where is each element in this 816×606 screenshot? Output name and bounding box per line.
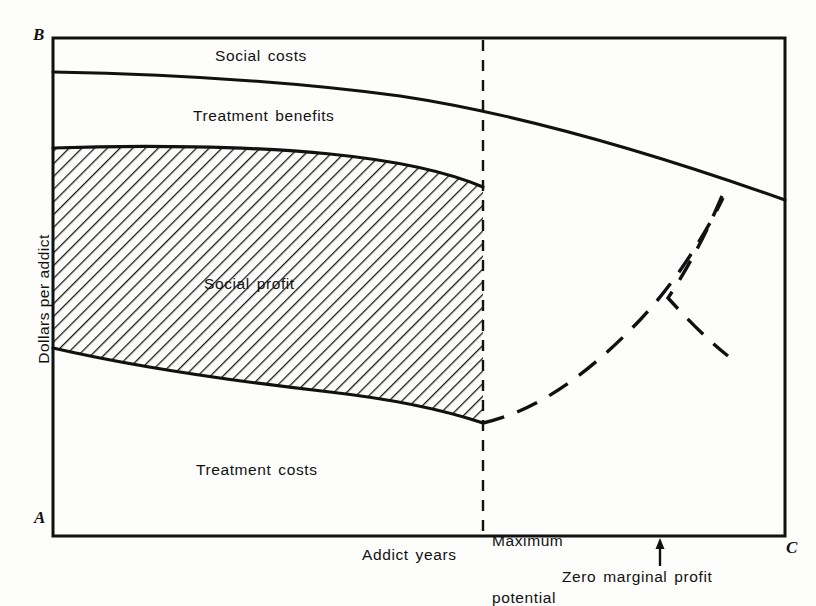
annotation-zero-marginal-profit: Zero marginal profit xyxy=(562,568,712,586)
axis-corner-label-a: A xyxy=(34,508,45,528)
chart-figure: B A C Social costs Treatment benefits So… xyxy=(0,0,816,606)
chart-canvas xyxy=(0,0,816,606)
band-label-social-costs: Social costs xyxy=(215,47,307,65)
annotation-maximum-potential: Maximum potential xyxy=(492,493,563,606)
x-axis-title: Addict years xyxy=(362,546,457,564)
band-label-social-profit: Social profit xyxy=(204,275,295,293)
axis-corner-label-c: C xyxy=(786,538,797,558)
y-axis-title: Dollars per addict xyxy=(35,209,53,389)
axis-corner-label-b: B xyxy=(33,25,44,45)
annotation-maximum-line2: potential xyxy=(492,588,563,606)
band-label-treatment-benefits: Treatment benefits xyxy=(193,107,334,125)
marginal-cost-dashed-curve-main xyxy=(666,196,728,356)
marginal-benefit-dashed-curve xyxy=(483,198,723,423)
zero-marginal-profit-arrow xyxy=(656,538,665,566)
band-label-treatment-costs: Treatment costs xyxy=(196,461,318,479)
marginal-cost-dashed-curve xyxy=(640,196,722,325)
annotation-maximum-line1: Maximum xyxy=(492,531,563,550)
marginal-cost-dashed xyxy=(668,196,728,356)
